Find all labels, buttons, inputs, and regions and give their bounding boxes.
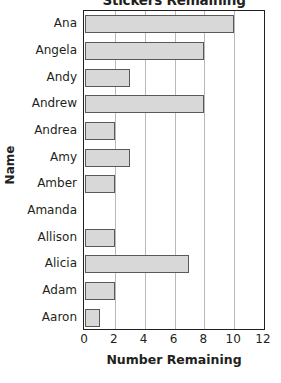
gridline: [234, 11, 235, 329]
y-axis-tick-label: Andy: [46, 69, 77, 85]
bar: [85, 309, 100, 327]
x-axis-tick-label: 4: [129, 332, 159, 346]
y-axis-tick-label: Adam: [42, 282, 77, 298]
y-axis-tick-labels: AnaAngelaAndyAndrewAndreaAmyAmberAmandaA…: [18, 10, 80, 330]
y-axis-tick-label: Aaron: [42, 309, 77, 325]
y-axis-tick-label: Angela: [35, 42, 77, 58]
y-axis-title: Name: [2, 0, 18, 330]
x-axis-tick-labels: 024681012: [83, 332, 265, 350]
x-axis-tick-label: 12: [248, 332, 278, 346]
chart-title: Stickers Remaining: [83, 0, 265, 9]
y-axis-tick-label: Amber: [37, 175, 77, 191]
y-axis-tick-label: Andrea: [34, 122, 77, 138]
x-axis-tick-label: 8: [188, 332, 218, 346]
gridline: [204, 11, 205, 329]
bar: [85, 149, 130, 167]
bar: [85, 175, 115, 193]
bar: [85, 15, 234, 33]
bar-chart: Stickers Remaining Name AnaAngelaAndyAnd…: [0, 0, 281, 383]
bar: [85, 95, 204, 113]
x-axis-tick-label: 10: [218, 332, 248, 346]
y-axis-tick-label: Amanda: [27, 202, 77, 218]
bar: [85, 229, 115, 247]
bar: [85, 255, 189, 273]
y-axis-tick-label: Allison: [38, 229, 77, 245]
bar: [85, 42, 204, 60]
x-axis-tick-label: 6: [159, 332, 189, 346]
bar: [85, 282, 115, 300]
bar: [85, 122, 115, 140]
y-axis-tick-label: Andrew: [32, 95, 77, 111]
x-axis-tick-label: 2: [99, 332, 129, 346]
x-axis-tick-label: 0: [69, 332, 99, 346]
y-axis-tick-label: Alicia: [45, 255, 77, 271]
y-axis-title-label: Name: [3, 146, 17, 185]
y-axis-tick-label: Ana: [54, 15, 77, 31]
y-axis-tick-label: Amy: [50, 149, 77, 165]
plot-area: [83, 10, 265, 330]
bar: [85, 69, 130, 87]
x-axis-title: Number Remaining: [83, 352, 265, 367]
